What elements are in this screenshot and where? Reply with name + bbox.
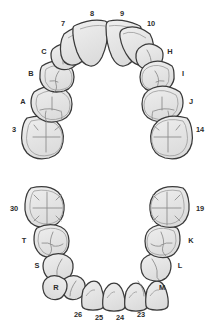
tooth-label-L: L bbox=[178, 261, 183, 270]
tooth-lower-right-first-permanent-molar[interactable] bbox=[150, 187, 189, 228]
tooth-label-9: 9 bbox=[120, 9, 124, 18]
tooth-lower-left-second-primary-molar[interactable] bbox=[34, 225, 69, 258]
diagram-background bbox=[0, 0, 214, 331]
tooth-label-24: 24 bbox=[116, 313, 125, 322]
tooth-label-H: H bbox=[167, 47, 172, 56]
tooth-label-R: R bbox=[53, 283, 59, 292]
tooth-label-T: T bbox=[22, 236, 27, 245]
tooth-label-K: K bbox=[188, 236, 194, 245]
tooth-label-C: C bbox=[41, 47, 47, 56]
tooth-upper-left-first-permanent-molar[interactable] bbox=[22, 116, 64, 159]
tooth-label-25: 25 bbox=[95, 313, 103, 322]
tooth-label-S: S bbox=[35, 261, 40, 270]
tooth-label-A: A bbox=[20, 97, 26, 106]
tooth-label-23: 23 bbox=[137, 310, 145, 319]
tooth-label-I: I bbox=[182, 69, 184, 78]
tooth-lower-left-first-permanent-molar[interactable] bbox=[25, 187, 64, 228]
tooth-label-19: 19 bbox=[196, 204, 204, 213]
tooth-label-J: J bbox=[189, 97, 193, 106]
tooth-label-14: 14 bbox=[196, 125, 205, 134]
tooth-lower-right-second-primary-molar[interactable] bbox=[145, 225, 180, 258]
tooth-label-3: 3 bbox=[12, 125, 16, 134]
tooth-label-26: 26 bbox=[74, 310, 82, 319]
tooth-label-30: 30 bbox=[10, 204, 18, 213]
tooth-label-M: M bbox=[159, 283, 165, 292]
tooth-label-8: 8 bbox=[90, 9, 94, 18]
tooth-upper-right-first-permanent-molar[interactable] bbox=[151, 116, 193, 159]
tooth-label-10: 10 bbox=[147, 19, 155, 28]
dental-arch-diagram: 3 A B C 7 8 9 10 H I J 14 bbox=[0, 0, 214, 331]
dental-chart-svg: 3 A B C 7 8 9 10 H I J 14 bbox=[0, 0, 214, 331]
tooth-label-B: B bbox=[28, 69, 33, 78]
tooth-label-7: 7 bbox=[61, 19, 65, 28]
